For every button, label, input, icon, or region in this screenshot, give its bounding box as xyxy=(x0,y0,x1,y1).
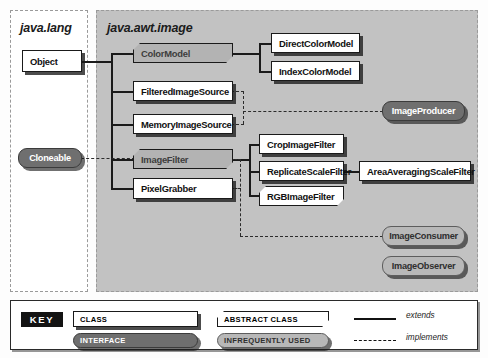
node-index-color-model-label: IndexColorModel xyxy=(272,66,358,77)
node-object-label: Object xyxy=(23,56,65,67)
node-image-consumer-label: ImageConsumer xyxy=(382,231,465,241)
key-item-interface: INTERFACE xyxy=(73,333,198,348)
key-line-implements-swatch xyxy=(354,340,396,341)
node-image-filter-label: ImageFilter xyxy=(134,154,195,165)
node-image-producer-label: ImageProducer xyxy=(385,106,463,116)
node-pixel-grabber-label: PixelGrabber xyxy=(134,183,203,194)
edge-cloneable-imagefilter xyxy=(81,158,135,159)
node-image-filter[interactable]: ImageFilter xyxy=(133,149,233,169)
key-item-interface-label: INTERFACE xyxy=(74,336,126,345)
node-filtered-image-source[interactable]: FilteredImageSource xyxy=(133,81,233,101)
key-item-infrequently-used: INFREQUENTLY USED xyxy=(217,333,329,348)
node-cloneable-label: Cloneable xyxy=(22,153,78,163)
edge-imagefilter-rgbimagefilter xyxy=(249,195,260,197)
node-image-consumer[interactable]: ImageConsumer xyxy=(382,226,465,246)
key-line-extends-swatch xyxy=(354,318,396,320)
edge-object-memoryimagesource xyxy=(111,124,134,126)
node-direct-color-model-label: DirectColorModel xyxy=(272,38,360,49)
edge-colormodel-trunk xyxy=(232,53,260,55)
edge-colormodel-spine xyxy=(259,43,261,73)
package-title-java-lang: java.lang xyxy=(20,21,72,35)
node-index-color-model[interactable]: IndexColorModel xyxy=(271,61,360,81)
node-color-model-label: ColorModel xyxy=(134,48,197,59)
edge-to-imageconsumer xyxy=(240,236,383,237)
key-badge: KEY xyxy=(21,312,63,327)
edge-imageconsumer-riser xyxy=(240,159,241,236)
node-area-averaging-scale-filter-label: AreaAveragingScaleFilter xyxy=(360,166,482,177)
node-filtered-image-source-label: FilteredImageSource xyxy=(134,86,236,97)
node-image-observer[interactable]: ImageObserver xyxy=(382,256,465,276)
node-pixel-grabber[interactable]: PixelGrabber xyxy=(133,178,233,199)
key-item-class-label: CLASS xyxy=(74,315,107,324)
node-image-observer-label: ImageObserver xyxy=(385,261,463,271)
node-memory-image-source[interactable]: MemoryImageSource xyxy=(133,114,233,134)
key-line-implements: implements xyxy=(354,340,396,341)
package-title-java-awt-image: java.awt.image xyxy=(107,21,192,35)
edge-object-filteredimagesource xyxy=(111,91,134,93)
node-rgb-image-filter[interactable]: RGBImageFilter xyxy=(259,186,344,206)
node-rgb-image-filter-label: RGBImageFilter xyxy=(260,191,341,202)
edge-imageproducer-riser xyxy=(243,91,244,124)
edge-object-spine xyxy=(111,53,113,188)
key-item-abstract-class: ABSTRACT CLASS xyxy=(217,311,329,327)
edge-object-trunk xyxy=(81,61,112,63)
key-item-infrequently-used-label: INFREQUENTLY USED xyxy=(218,336,311,345)
key-line-implements-label: implements xyxy=(406,333,448,342)
node-replicate-scale-filter[interactable]: ReplicateScaleFilter xyxy=(259,161,344,181)
node-memory-image-source-label: MemoryImageSource xyxy=(134,119,239,130)
node-color-model[interactable]: ColorModel xyxy=(133,43,233,63)
node-cloneable[interactable]: Cloneable xyxy=(18,148,82,168)
edge-object-pixelgrabber xyxy=(111,188,134,190)
key-line-extends-label: extends xyxy=(406,311,435,320)
edge-to-imageproducer xyxy=(243,111,383,112)
node-area-averaging-scale-filter[interactable]: AreaAveragingScaleFilter xyxy=(359,161,471,181)
edge-object-colormodel xyxy=(111,53,134,55)
node-object[interactable]: Object xyxy=(22,50,82,72)
key-item-abstract-class-label: ABSTRACT CLASS xyxy=(218,315,298,324)
edge-object-imagefilter xyxy=(111,159,134,161)
node-image-producer[interactable]: ImageProducer xyxy=(382,101,465,121)
key-line-extends: extends xyxy=(354,318,396,320)
node-crop-image-filter[interactable]: CropImageFilter xyxy=(259,134,344,154)
node-replicate-scale-filter-label: ReplicateScaleFilter xyxy=(260,166,358,177)
class-diagram: java.lang java.awt.image Object Cloneabl… xyxy=(0,0,488,358)
node-crop-image-filter-label: CropImageFilter xyxy=(260,139,342,150)
key-legend: KEY CLASS ABSTRACT CLASS INTERFACE INFRE… xyxy=(10,300,478,350)
edge-imagefilter-spine xyxy=(249,144,251,195)
node-direct-color-model[interactable]: DirectColorModel xyxy=(271,33,360,53)
key-item-class: CLASS xyxy=(73,311,198,327)
